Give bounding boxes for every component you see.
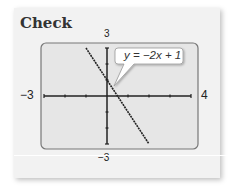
equation-label: y = −2x + 1 bbox=[124, 49, 181, 61]
divider bbox=[14, 155, 229, 156]
graphing-calculator-screen bbox=[0, 0, 229, 188]
x-max-label: 4 bbox=[201, 88, 208, 102]
x-min-label: −3 bbox=[20, 88, 34, 102]
y-min-label: −3 bbox=[98, 152, 109, 163]
y-max-label: 3 bbox=[104, 28, 110, 39]
